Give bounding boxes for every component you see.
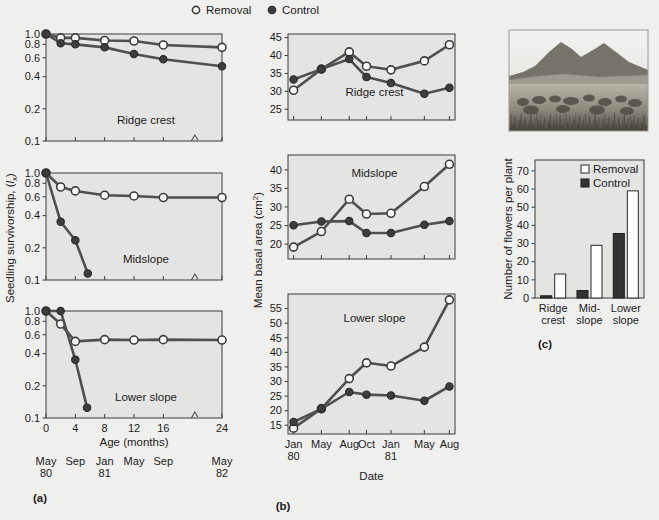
series-control-point bbox=[421, 90, 428, 97]
panel-b-x-tick-label: Oct bbox=[358, 438, 375, 450]
legend-marker-control bbox=[268, 6, 276, 14]
panel-c-legend-label-control: Control bbox=[593, 177, 630, 189]
series-removal-point bbox=[420, 183, 428, 191]
y-tick-label: 25 bbox=[270, 219, 282, 231]
bar-control bbox=[577, 291, 588, 298]
subplot-title: Ridge crest bbox=[117, 114, 176, 126]
panel-c-category-label: Lower bbox=[611, 302, 641, 314]
y-tick-label: 40 bbox=[270, 346, 282, 358]
series-control-point bbox=[318, 65, 325, 72]
scientific-figure: RemovalControl1.00.80.60.40.20.1Ridge cr… bbox=[0, 0, 659, 520]
panel-b-x-tick-year: 80 bbox=[287, 450, 299, 462]
legend-label-removal: Removal bbox=[206, 4, 251, 16]
y-tick-label: 0.2 bbox=[25, 242, 40, 254]
series-removal-point bbox=[362, 210, 370, 218]
subplot-title: Midslope bbox=[123, 253, 169, 265]
panel-a-date-label: May bbox=[124, 455, 145, 467]
series-removal-point bbox=[159, 336, 167, 344]
panel-a-xlabel: Age (months) bbox=[99, 436, 168, 448]
y-tick-label: 40 bbox=[517, 219, 529, 231]
y-tick-label: 20 bbox=[270, 404, 282, 416]
series-control-point bbox=[346, 388, 353, 395]
series-control-point bbox=[57, 40, 64, 47]
y-tick-label: 0.6 bbox=[25, 52, 40, 64]
y-tick-label: 20 bbox=[517, 255, 529, 267]
panel-c-category-label: Mid- bbox=[579, 302, 601, 314]
panel-letter-a: (a) bbox=[33, 492, 47, 504]
series-control-point bbox=[290, 222, 297, 229]
series-control-point bbox=[363, 73, 370, 80]
series-removal-point bbox=[345, 375, 353, 383]
y-tick-label: 25 bbox=[270, 390, 282, 402]
y-tick-label: 0.1 bbox=[25, 412, 40, 424]
panel-c-category-label: Ridge bbox=[539, 302, 568, 314]
figure-canvas: RemovalControl1.00.80.60.40.20.1Ridge cr… bbox=[0, 0, 659, 520]
panel-c-legend-label-removal: Removal bbox=[593, 163, 638, 175]
panel-b-xlabel: Date bbox=[359, 470, 383, 482]
panel-a-subplot-0: 1.00.80.60.40.20.1Ridge crest bbox=[25, 28, 226, 147]
photo-shrub bbox=[563, 97, 579, 105]
y-tick-label: 55 bbox=[270, 302, 282, 314]
bar-removal bbox=[627, 191, 638, 298]
series-removal-point bbox=[218, 336, 226, 344]
legend-label-control: Control bbox=[282, 4, 319, 16]
y-tick-label: 35 bbox=[270, 361, 282, 373]
panel-a-date-label: May bbox=[212, 455, 233, 467]
field-photograph bbox=[507, 30, 648, 131]
series-removal-point bbox=[101, 191, 109, 199]
panel-b-x-tick-year: 81 bbox=[385, 450, 397, 462]
legend-marker-removal bbox=[192, 6, 199, 13]
series-control-point bbox=[290, 418, 297, 425]
y-tick-label: 0.8 bbox=[25, 38, 40, 50]
bar-removal bbox=[555, 274, 566, 298]
series-control-point bbox=[42, 307, 49, 314]
y-tick-label: 0.1 bbox=[25, 274, 40, 286]
panel-a-x-tick-label: 16 bbox=[157, 422, 169, 434]
series-removal-point bbox=[420, 57, 428, 65]
series-removal-point bbox=[362, 359, 370, 367]
panel-b-x-tick-label: Jan bbox=[382, 438, 400, 450]
series-control-point bbox=[72, 237, 79, 244]
series-removal-point bbox=[445, 41, 453, 49]
series-removal-point bbox=[387, 362, 395, 370]
series-control-point bbox=[72, 41, 79, 48]
y-tick-label: 0.2 bbox=[25, 103, 40, 115]
photo-shrub bbox=[598, 98, 612, 106]
y-tick-label: 45 bbox=[270, 332, 282, 344]
y-tick-label: 30 bbox=[517, 237, 529, 249]
y-tick-label: 30 bbox=[270, 375, 282, 387]
photo-shrub bbox=[620, 107, 634, 115]
series-removal-point bbox=[345, 195, 353, 203]
photo-shrub bbox=[517, 98, 529, 106]
y-tick-label: 45 bbox=[270, 31, 282, 43]
subplot-title: Ridge crest bbox=[345, 86, 404, 98]
photo-shrub bbox=[589, 106, 605, 115]
panel-b-x-tick-label: Aug bbox=[440, 438, 460, 450]
series-control-point bbox=[290, 76, 297, 83]
bar-control bbox=[613, 234, 624, 298]
series-removal-point bbox=[387, 209, 395, 217]
series-control-point bbox=[57, 218, 64, 225]
panel-a-subplot-2: 1.00.80.60.40.20.1Lower slope bbox=[25, 305, 226, 424]
series-removal-point bbox=[101, 336, 109, 344]
panel-a-date-year: 80 bbox=[40, 467, 52, 479]
series-control-point bbox=[318, 405, 325, 412]
panel-a-ylabel: Seedling survivorship, (lx) bbox=[4, 173, 19, 303]
y-tick-label: 0.4 bbox=[25, 209, 40, 221]
photo-shrub bbox=[583, 95, 595, 102]
series-control-point bbox=[160, 56, 167, 63]
photo-shrub bbox=[628, 99, 642, 107]
panel-b-subplot-2: 152025303540455055Lower slope bbox=[270, 294, 455, 434]
panel-c-category-label2: crest bbox=[541, 314, 565, 326]
y-tick-label: 35 bbox=[270, 67, 282, 79]
series-removal-point bbox=[218, 194, 226, 202]
panel-a-date-label: Jan bbox=[96, 455, 114, 467]
series-control-point bbox=[42, 30, 49, 37]
series-control-point bbox=[84, 270, 91, 277]
y-tick-label: 60 bbox=[517, 183, 529, 195]
series-control-point bbox=[42, 169, 49, 176]
series-control-point bbox=[446, 383, 453, 390]
series-removal-point bbox=[445, 296, 453, 304]
y-tick-label: 0 bbox=[523, 292, 529, 304]
series-removal-point bbox=[290, 243, 298, 251]
